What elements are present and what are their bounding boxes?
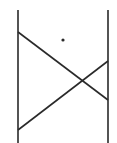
geometry-diagram — [0, 0, 117, 143]
point-dot — [61, 38, 64, 41]
ascending-diagonal-line — [18, 61, 108, 130]
descending-diagonal-line — [18, 32, 108, 100]
